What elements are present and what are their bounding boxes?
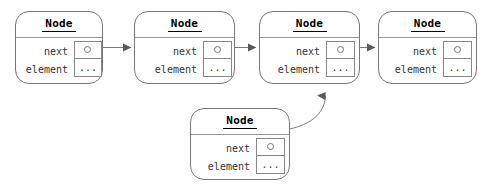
ellipsis-value: ...: [75, 61, 101, 75]
node-box[interactable]: Node next element ...: [134, 11, 235, 84]
node-title-row: Node: [379, 12, 476, 38]
node-title: Node: [16, 17, 102, 30]
node-value-frame[interactable]: ...: [203, 41, 232, 77]
node-title-underline: [42, 31, 76, 32]
node-title-underline: [223, 128, 257, 129]
field-label-next: next: [262, 46, 320, 57]
value-cell-next[interactable]: [75, 42, 101, 59]
value-cell-element[interactable]: ...: [327, 59, 354, 76]
field-label-element: element: [193, 161, 250, 172]
field-label-next: next: [18, 46, 68, 57]
node-title-row: Node: [16, 12, 102, 38]
node-title-underline: [293, 31, 327, 32]
node-title-underline: [168, 31, 202, 32]
node-title: Node: [379, 17, 476, 30]
ellipsis-value: ...: [444, 61, 471, 75]
value-cell-next[interactable]: [444, 42, 471, 59]
reference-dot-icon: [214, 46, 221, 53]
value-cell-next[interactable]: [204, 42, 231, 59]
field-label-next: next: [193, 143, 250, 154]
diagram-canvas: Node next element ... Node next element: [0, 0, 484, 190]
node-title-row: Node: [260, 12, 359, 38]
node-body: next element ...: [260, 38, 359, 109]
value-cell-next[interactable]: [327, 42, 354, 59]
field-label-next: next: [381, 46, 437, 57]
node-value-frame[interactable]: ...: [74, 41, 102, 77]
reference-dot-icon: [267, 143, 274, 150]
reference-dot-icon: [337, 46, 344, 53]
node-box[interactable]: Node next element ...: [259, 11, 360, 84]
node-title: Node: [260, 17, 359, 30]
node-body: next element ...: [379, 38, 476, 109]
node-title: Node: [135, 17, 234, 30]
field-label-element: element: [262, 64, 320, 75]
node-title: Node: [191, 114, 289, 127]
field-label-element: element: [139, 64, 197, 75]
reference-dot-icon: [454, 46, 461, 53]
value-cell-next[interactable]: [257, 139, 284, 156]
field-label-element: element: [381, 64, 437, 75]
node-title-row: Node: [191, 109, 289, 135]
ellipsis-value: ...: [204, 61, 231, 75]
node-body: next element ...: [191, 135, 289, 190]
node-body: next element ...: [16, 38, 102, 109]
value-cell-element[interactable]: ...: [257, 156, 284, 173]
field-label-next: next: [139, 46, 197, 57]
value-cell-element[interactable]: ...: [75, 59, 101, 76]
node-box[interactable]: Node next element ...: [378, 11, 477, 84]
value-cell-element[interactable]: ...: [204, 59, 231, 76]
node-box[interactable]: Node next element ...: [190, 108, 290, 180]
reference-dot-icon: [84, 46, 91, 53]
node-title-row: Node: [135, 12, 234, 38]
value-cell-element[interactable]: ...: [444, 59, 471, 76]
node-value-frame[interactable]: ...: [326, 41, 355, 77]
field-label-element: element: [18, 64, 68, 75]
ellipsis-value: ...: [257, 158, 284, 172]
node-title-underline: [411, 31, 445, 32]
node-value-frame[interactable]: ...: [443, 41, 472, 77]
node-body: next element ...: [135, 38, 234, 109]
ellipsis-value: ...: [327, 61, 354, 75]
node-box[interactable]: Node next element ...: [15, 11, 103, 84]
node-value-frame[interactable]: ...: [256, 138, 285, 174]
